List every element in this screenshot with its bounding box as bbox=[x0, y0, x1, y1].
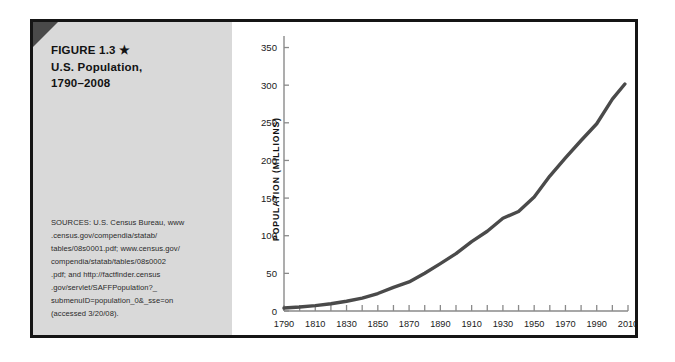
figure-container: FIGURE 1.3 ★ U.S. Population, 1790–2008 … bbox=[30, 19, 638, 338]
caption-panel: FIGURE 1.3 ★ U.S. Population, 1790–2008 … bbox=[33, 22, 232, 335]
x-axis-tick-label: 1890 bbox=[430, 319, 450, 329]
population-line-chart: 0501001502002503003501790181018301850187… bbox=[232, 22, 635, 335]
x-axis-tick-label: 1930 bbox=[493, 319, 513, 329]
figure-title-line-1: FIGURE 1.3 ★ bbox=[51, 42, 216, 59]
x-axis-tick-label: 1910 bbox=[461, 319, 481, 329]
y-axis-tick-label: 150 bbox=[261, 193, 277, 204]
x-axis-tick-label: 1790 bbox=[274, 319, 294, 329]
figure-title-line-3: 1790–2008 bbox=[51, 75, 216, 92]
x-axis-tick-label: 1970 bbox=[555, 319, 575, 329]
x-axis-tick-label: 1990 bbox=[587, 319, 607, 329]
x-axis-tick-label: 1810 bbox=[305, 319, 325, 329]
sources-line: .gov/servlet/SAFFPopulation?_ bbox=[51, 281, 219, 294]
y-axis-tick-label: 250 bbox=[261, 117, 277, 128]
x-axis-tick-label: 1950 bbox=[524, 319, 544, 329]
y-axis-tick-label: 300 bbox=[261, 80, 277, 91]
sources-line: .pdf; and http://factfinder.census bbox=[51, 268, 219, 281]
sources-note: SOURCES: U.S. Census Bureau, www .census… bbox=[51, 216, 219, 320]
figure-title: FIGURE 1.3 ★ U.S. Population, 1790–2008 bbox=[51, 42, 216, 92]
x-axis-tick-label: 2010 bbox=[618, 319, 635, 329]
y-axis-tick-label: 200 bbox=[261, 155, 277, 166]
sources-line: compendia/statab/tables/08s0002 bbox=[51, 255, 219, 268]
x-axis-tick-label: 1830 bbox=[336, 319, 356, 329]
x-axis-tick-label: 1870 bbox=[399, 319, 419, 329]
sources-line: .census.gov/compendia/statab/ bbox=[51, 229, 219, 242]
y-axis-tick-label: 350 bbox=[261, 42, 277, 53]
sources-line: (accessed 3/20/08). bbox=[51, 307, 219, 320]
chart-panel: POPULATION (MILLIONS) 050100150200250300… bbox=[232, 22, 635, 335]
y-axis-tick-label: 50 bbox=[266, 268, 277, 279]
x-axis-tick-label: 1850 bbox=[368, 319, 388, 329]
y-axis-tick-label: 0 bbox=[272, 306, 277, 317]
sources-line: submenuID=population_0&_sse=on bbox=[51, 294, 219, 307]
sources-line: SOURCES: U.S. Census Bureau, www bbox=[51, 216, 219, 229]
population-series-line bbox=[284, 84, 625, 308]
figure-title-line-2: U.S. Population, bbox=[51, 59, 216, 76]
y-axis-tick-label: 100 bbox=[261, 230, 277, 241]
sources-line: tables/08s0001.pdf; www.census.gov/ bbox=[51, 242, 219, 255]
